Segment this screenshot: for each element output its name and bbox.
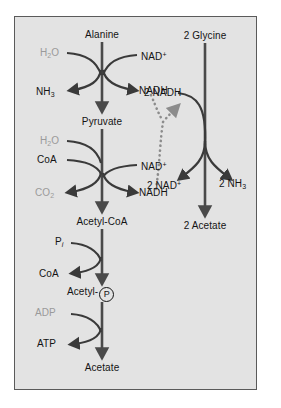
curved-arrows-glycine-reductase [178,93,228,177]
cofactor-label-2-nadh: 2 NADH [144,87,181,98]
product-label-2-nad-plus: 2 NAD+ [147,178,181,191]
figure-panel: Alanine Pyruvate Acetyl-CoA Acetyl-P Ace… [14,16,257,390]
metabolite-label-acetate: Acetate [85,362,120,373]
metabolite-label-acetate-right: 2 Acetate [184,220,227,231]
product-label-carbon-dioxide-step2: CO2 [35,187,54,201]
cofactor-label-adp: ADP [35,307,56,318]
cofactor-label-water-step1: H2O [40,47,59,61]
product-label-ammonia-step1: NH3 [36,86,55,100]
metabolite-label-acetyl-coa: Acetyl-CoA [76,216,127,227]
pathway-diagram-svg [15,17,256,389]
product-label-coa-step3: CoA [39,268,59,279]
metabolite-label-pyruvate: Pyruvate [82,116,122,127]
dotted-nadh-connector [151,95,175,189]
metabolite-label-alanine: Alanine [85,29,119,40]
phosphate-circle-icon: P [99,287,114,302]
cofactor-label-nad-plus-step1: NAD+ [141,49,167,62]
curved-arrows-phosphotransacetylase [71,243,101,273]
acetyl-phosphate-text: Acetyl- [67,286,98,297]
cofactor-label-coa-step2: CoA [37,154,57,165]
product-label-2-ammonia: 2 NH3 [219,178,246,192]
product-label-atp: ATP [37,338,56,349]
metabolite-label-acetyl-phosphate: Acetyl-P [67,286,114,302]
metabolite-label-glycine: 2 Glycine [184,30,227,41]
cofactor-label-water-step2: H2O [40,135,59,149]
cofactor-label-inorganic-phosphate: Pi [55,236,63,250]
cofactor-label-nad-plus-step2: NAD+ [141,159,167,172]
curved-arrows-acetate-kinase [71,314,101,344]
